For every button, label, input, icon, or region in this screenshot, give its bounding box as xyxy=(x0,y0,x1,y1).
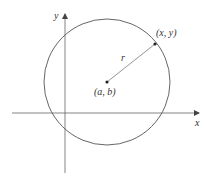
y-axis-label: y xyxy=(53,10,59,21)
x-axis-label: x xyxy=(194,117,200,128)
center-point xyxy=(105,80,108,83)
radius-label: r xyxy=(121,52,125,63)
circle-point xyxy=(153,42,156,45)
point-label: (x, y) xyxy=(156,27,177,39)
circle-diagram: y x (x, y) r (a, b) xyxy=(0,0,210,179)
radius-line xyxy=(107,44,155,82)
center-label: (a, b) xyxy=(94,86,116,98)
